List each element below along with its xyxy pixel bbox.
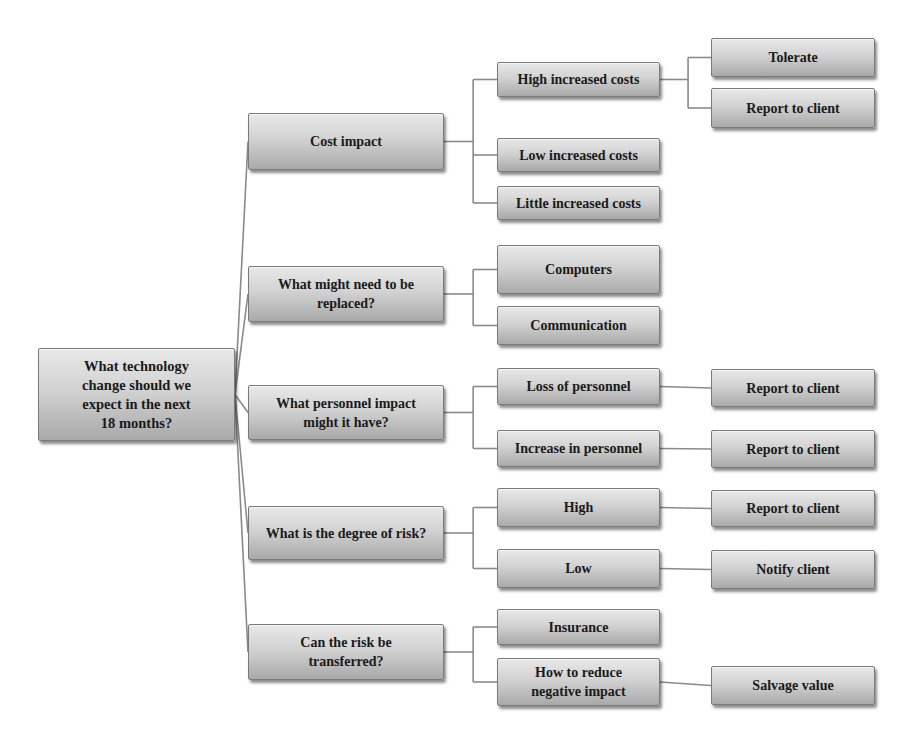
- decision-tree-diagram: What technology change should we expect …: [0, 0, 910, 741]
- reduce-negative-impact-box: How to reduce negative impact: [497, 658, 660, 706]
- risk-degree-question-box: What is the degree of risk?: [248, 506, 444, 560]
- computers-box: Computers: [497, 245, 660, 294]
- low-increased-costs-box: Low increased costs: [497, 138, 660, 172]
- high-increased-costs-box: High increased costs: [497, 62, 660, 97]
- report-to-client-box: Report to client: [711, 430, 875, 468]
- risk-low-box: Low: [497, 549, 660, 588]
- insurance-box: Insurance: [497, 609, 660, 645]
- root-question-box: What technology change should we expect …: [38, 348, 235, 441]
- cost-impact-box: Cost impact: [248, 113, 444, 170]
- little-increased-costs-box: Little increased costs: [497, 186, 660, 220]
- report-to-client-box: Report to client: [711, 490, 875, 527]
- tolerate-box: Tolerate: [711, 38, 875, 77]
- loss-of-personnel-box: Loss of personnel: [497, 368, 660, 405]
- personnel-impact-question-box: What personnel impact might it have?: [248, 385, 444, 440]
- report-to-client-box: Report to client: [711, 88, 875, 128]
- salvage-value-box: Salvage value: [711, 666, 875, 705]
- report-to-client-box: Report to client: [711, 369, 875, 407]
- notify-client-box: Notify client: [711, 550, 875, 589]
- communication-box: Communication: [497, 306, 660, 345]
- risk-transfer-question-box: Can the risk be transferred?: [248, 624, 444, 680]
- increase-in-personnel-box: Increase in personnel: [497, 430, 660, 467]
- replacement-question-box: What might need to be replaced?: [248, 266, 444, 322]
- risk-high-box: High: [497, 488, 660, 527]
